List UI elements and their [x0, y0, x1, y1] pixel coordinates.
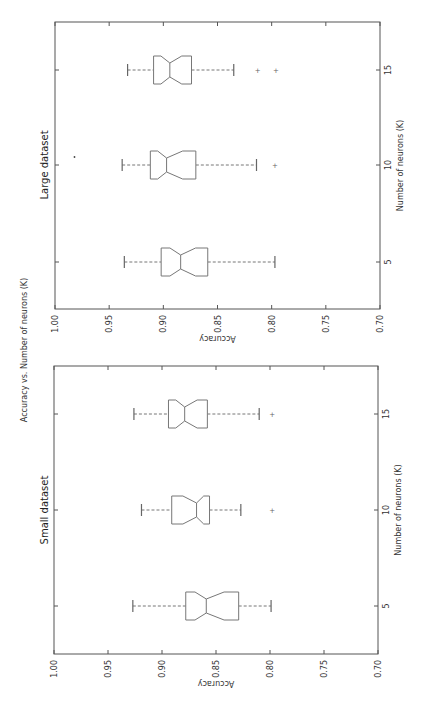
accuracy-axis-label: Accuracy [197, 679, 234, 688]
neurons-tick-label: 10 [384, 160, 393, 170]
panel-small-dataset: 1.000.950.900.850.800.750.70Accuracy5101… [39, 366, 403, 688]
accuracy-tick-label: 0.80 [266, 660, 275, 678]
outlier-marker: + [269, 507, 275, 515]
accuracy-tick-label: 0.85 [212, 660, 221, 678]
accuracy-tick-label: 0.70 [374, 660, 383, 678]
accuracy-tick-label: 0.95 [104, 660, 113, 678]
accuracy-tick-label: 0.95 [105, 315, 114, 333]
panel-subtitle: Large dataset [39, 130, 50, 199]
neurons-axis-label: Number of neurons (K) [396, 120, 405, 211]
neurons-tick-label: 15 [384, 65, 393, 75]
panel-subtitle: Small dataset [39, 476, 50, 545]
neurons-axis-label: Number of neurons (K) [394, 464, 403, 555]
accuracy-tick-label: 0.70 [376, 315, 385, 333]
notched-box [154, 56, 192, 84]
accuracy-tick-label: 0.75 [322, 315, 331, 333]
box-k15: ++ [128, 56, 279, 84]
box-k10: + [141, 496, 275, 524]
notched-box [150, 151, 196, 179]
accuracy-tick-label: 0.75 [320, 660, 329, 678]
neurons-tick-label: 10 [382, 505, 391, 515]
neurons-tick-label: 5 [384, 259, 393, 264]
accuracy-tick-label: 0.80 [268, 315, 277, 333]
accuracy-tick-label: 1.00 [50, 660, 59, 678]
notched-box [186, 592, 239, 620]
neurons-tick-label: 15 [382, 409, 391, 419]
outlier-marker: + [272, 162, 278, 170]
accuracy-axis-label: Accuracy [199, 334, 236, 343]
outlier-marker: + [273, 67, 279, 75]
accuracy-tick-label: 0.90 [159, 315, 168, 333]
accuracy-tick-label: 1.00 [51, 315, 60, 333]
box-k5 [133, 592, 271, 620]
accuracy-tick-label: 0.90 [158, 660, 167, 678]
outlier-point [74, 156, 76, 158]
notched-box [168, 400, 207, 428]
outlier-marker: + [269, 411, 275, 419]
notched-box [172, 496, 210, 524]
box-k10: + [74, 151, 278, 179]
accuracy-tick-label: 0.85 [214, 315, 223, 333]
outlier-marker: + [255, 67, 261, 75]
figure: Accuracy vs. Number of neurons (K) 1.000… [0, 0, 421, 701]
panels: 1.000.950.900.850.800.750.70Accuracy5101… [39, 22, 405, 688]
panel-large-dataset: 1.000.950.900.850.800.750.70Accuracy5101… [39, 22, 405, 343]
box-k5 [124, 248, 275, 276]
figure-title: Accuracy vs. Number of neurons (K) [20, 278, 29, 422]
neurons-tick-label: 5 [382, 603, 391, 608]
notched-box [161, 248, 208, 276]
box-k15: + [134, 400, 275, 428]
